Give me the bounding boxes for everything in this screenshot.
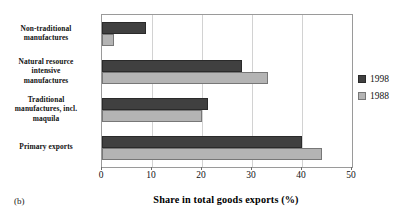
category-axis-labels: Non-traditionalmanufacturesNatural resou…	[0, 14, 98, 166]
category-label-3: Traditionalmanufactures, incl.maquila	[0, 95, 94, 123]
category-label-4: Primary exports	[0, 142, 94, 151]
category-label-line: Non-traditional	[0, 24, 94, 33]
category-label-line: maquila	[0, 114, 94, 123]
bar-1988-1	[102, 34, 114, 46]
plot-area	[101, 14, 353, 168]
chart-legend: 19981988	[358, 72, 404, 106]
legend-item-1998: 1998	[358, 72, 404, 85]
legend-label: 1998	[370, 74, 389, 84]
bar-1998-1	[102, 22, 146, 34]
legend-swatch-icon	[358, 92, 366, 100]
x-tick-label: 40	[288, 170, 314, 180]
category-label-line: Natural resource	[0, 57, 94, 66]
bar-1988-3	[102, 110, 202, 122]
category-label-line: manufactures	[0, 76, 94, 85]
gridline	[302, 15, 303, 167]
panel-caption: (b)	[14, 196, 25, 206]
figure-panel-b: Non-traditionalmanufacturesNatural resou…	[0, 0, 408, 222]
x-tick-label: 10	[138, 170, 164, 180]
category-label-line: intensive	[0, 66, 94, 75]
category-label-line: Traditional	[0, 95, 94, 104]
category-label-line: manufactures	[0, 33, 94, 42]
category-label-2: Natural resourceintensivemanufactures	[0, 57, 94, 85]
category-label-1: Non-traditionalmanufactures	[0, 24, 94, 42]
bar-1998-2	[102, 60, 242, 72]
category-label-line: manufactures, incl.	[0, 104, 94, 113]
bar-1998-4	[102, 136, 302, 148]
bar-1988-2	[102, 72, 268, 84]
legend-swatch-icon	[358, 75, 366, 83]
category-label-line: Primary exports	[0, 142, 94, 151]
x-tick-label: 30	[238, 170, 264, 180]
bar-1998-3	[102, 98, 208, 110]
x-tick-label: 20	[188, 170, 214, 180]
legend-item-1988: 1988	[358, 89, 404, 102]
x-axis-title: Share in total goods exports (%)	[101, 194, 351, 205]
x-tick-label: 0	[88, 170, 114, 180]
x-tick-label: 50	[338, 170, 364, 180]
legend-label: 1988	[370, 91, 389, 101]
bar-1988-4	[102, 148, 322, 160]
